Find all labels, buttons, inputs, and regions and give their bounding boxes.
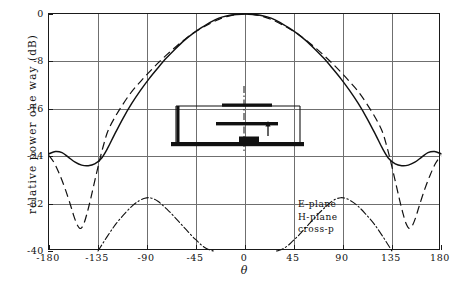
- legend-entry-h-plane: H-plane: [298, 211, 338, 224]
- inset-upper-patch: [222, 104, 272, 107]
- y-tick-label: -16: [27, 102, 44, 113]
- figure-radiation-pattern: relative power one way (dB): [0, 0, 455, 284]
- y-tick-label: -24: [27, 150, 44, 161]
- y-tick-label: 0: [37, 8, 44, 19]
- x-tick-label: 135: [381, 252, 401, 263]
- x-tick-label: -90: [137, 252, 154, 263]
- x-axis-title: θ: [241, 264, 248, 277]
- x-tick-label: 90: [335, 252, 348, 263]
- x-tick-label: 45: [286, 252, 299, 263]
- inset-antenna-diagram: [0, 0, 455, 284]
- x-tick-label: 0: [241, 252, 248, 263]
- y-tick-label: -8: [34, 55, 44, 66]
- inset-side-wall: [177, 106, 180, 144]
- y-tick-label: -32: [27, 197, 44, 208]
- y-tick-label: -40: [27, 245, 44, 256]
- legend-entry-e-plane: E-plane: [298, 198, 338, 211]
- legend-entry-cross-p: cross-p: [298, 223, 338, 236]
- inset-substrate-outline: [176, 106, 300, 146]
- inset-feed-block: [239, 137, 259, 144]
- x-tick-label: -45: [186, 252, 203, 263]
- legend: E-plane H-plane cross-p: [298, 198, 338, 236]
- x-tick-label: -135: [85, 252, 109, 263]
- inset-ground-plane: [171, 142, 304, 146]
- x-tick-label: 180: [430, 252, 450, 263]
